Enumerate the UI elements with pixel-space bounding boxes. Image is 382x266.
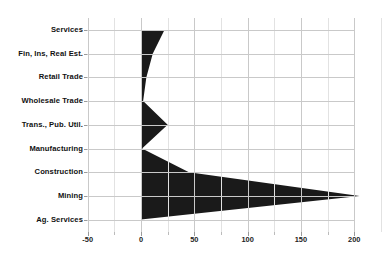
y-axis-label: Manufacturing	[29, 145, 83, 153]
gridline-horizontal	[87, 77, 355, 78]
x-axis-tick-minor	[328, 232, 329, 235]
x-axis-tick	[194, 232, 195, 236]
gridline-horizontal	[87, 149, 355, 150]
x-axis-tick	[354, 232, 355, 236]
x-axis-tick-label: 50	[174, 236, 214, 244]
y-axis-labels: ServicesFin, Ins, Real Est.Retail TradeW…	[0, 18, 83, 232]
x-axis-tick	[301, 232, 302, 236]
gridline-horizontal	[87, 30, 355, 31]
x-axis-tick-label: -50	[68, 236, 108, 244]
x-axis-tick	[248, 232, 249, 236]
y-axis-label: Construction	[35, 168, 83, 176]
x-axis-tick-minor	[274, 232, 275, 235]
x-axis-tick-label: 200	[334, 236, 374, 244]
x-axis-tick-label: 0	[121, 236, 161, 244]
x-axis-tick-minor	[221, 232, 222, 235]
x-axis-tick	[88, 232, 89, 236]
x-axis-tick	[141, 232, 142, 236]
x-axis-labels: -50050100150200	[0, 236, 373, 252]
x-axis-tick-minor	[168, 232, 169, 235]
y-axis-label: Fin, Ins, Real Est.	[18, 50, 83, 58]
y-axis-label: Trans., Pub. Util.	[22, 121, 83, 129]
gridline-horizontal	[87, 125, 355, 126]
gridline-horizontal	[87, 172, 355, 173]
x-axis-tick-label: 150	[281, 236, 321, 244]
x-axis-tick-label: 100	[228, 236, 268, 244]
gridline-horizontal	[87, 54, 355, 55]
plot-area	[87, 18, 355, 232]
y-axis-label: Wholesale Trade	[22, 97, 83, 105]
y-axis-label: Ag. Services	[36, 216, 83, 224]
gridline-horizontal	[87, 101, 355, 102]
y-axis-label: Retail Trade	[39, 73, 83, 81]
gridline-horizontal	[87, 196, 355, 197]
x-axis-tick-minor	[114, 232, 115, 235]
gridline-horizontal	[87, 220, 355, 221]
y-axis-label: Services	[51, 26, 83, 34]
y-axis-label: Mining	[58, 192, 83, 200]
